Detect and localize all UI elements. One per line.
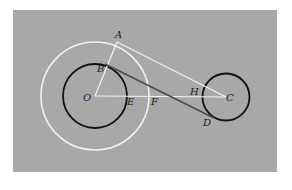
- geometry-figure: A B O E F H C D: [0, 0, 292, 190]
- label-D: D: [202, 117, 211, 128]
- segment-AC: [117, 42, 226, 97]
- label-B: B: [96, 63, 104, 74]
- label-F: F: [150, 96, 159, 107]
- segment-OC: [95, 96, 226, 97]
- label-E: E: [126, 96, 135, 107]
- label-O: O: [83, 92, 91, 103]
- label-C: C: [226, 92, 234, 103]
- label-A: A: [114, 29, 122, 40]
- label-H: H: [189, 86, 199, 97]
